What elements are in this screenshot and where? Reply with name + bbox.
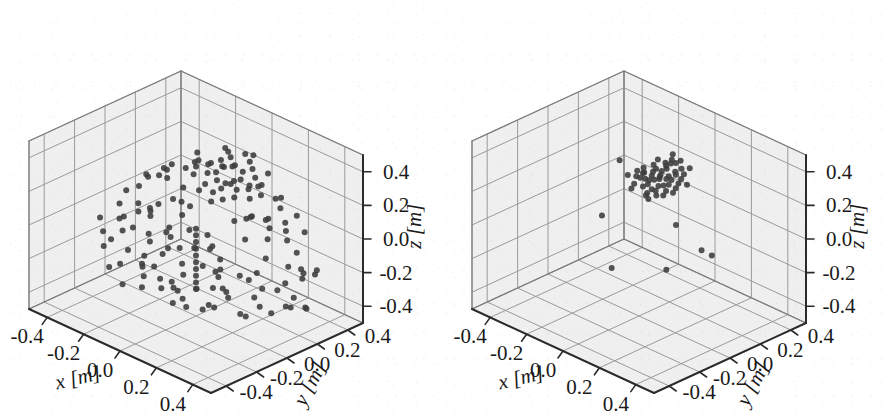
scatter-point [187, 203, 193, 209]
scatter-point [106, 264, 112, 270]
scatter-point [196, 187, 202, 193]
scatter-point [193, 246, 199, 252]
scatter-point [205, 170, 211, 176]
scatter-point [180, 272, 186, 278]
scatter-point [651, 177, 657, 183]
scatter-point [218, 185, 224, 191]
scatter-point [278, 195, 284, 201]
scatter-point [147, 213, 153, 219]
scatter-point [213, 169, 219, 175]
scatter-point [130, 225, 136, 231]
scatter-point [183, 165, 189, 171]
scatter-point [225, 295, 231, 301]
y-tick-label-0: -0.4 [683, 380, 717, 404]
scatter-point [284, 237, 290, 243]
scatter-point [273, 196, 279, 202]
scatter-point [234, 187, 240, 193]
scatter-point [141, 253, 147, 259]
scatter-point [100, 228, 106, 234]
scatter-point [265, 171, 271, 177]
scatter-point [156, 172, 162, 178]
scatter-point [200, 307, 206, 313]
z-tick-label-1: -0.2 [822, 261, 855, 285]
x-tick-label-0: -0.4 [454, 324, 488, 348]
scatter-point [193, 163, 199, 169]
x-tick [485, 317, 490, 324]
scatter-point [263, 256, 269, 262]
scatter-point [204, 232, 210, 238]
scatter-point [663, 176, 669, 182]
scatter-point [249, 213, 255, 219]
scatter-point [274, 287, 280, 293]
scatter-point [116, 216, 122, 222]
scatter-point [222, 180, 228, 186]
x-tick-label-1: -0.2 [47, 341, 80, 365]
scatter-point [139, 284, 145, 290]
scatter-point [257, 304, 263, 310]
y-tick [317, 344, 324, 349]
scatter-point [599, 212, 605, 218]
scatter-point [157, 276, 163, 282]
scatter-point [191, 171, 197, 177]
scatter-point [303, 306, 309, 312]
scatter-point [151, 263, 157, 269]
scatter-point [283, 228, 289, 234]
x-axis-label: x [m] [52, 361, 103, 395]
scatter-point [655, 156, 661, 162]
scatter-point [193, 273, 199, 279]
scatter-point [210, 189, 216, 195]
scatter-point [193, 279, 199, 285]
scatter-point [259, 286, 265, 292]
scatter-point [146, 231, 152, 237]
y-tick-label-4: 0.4 [365, 324, 392, 348]
scatter-point [120, 281, 126, 287]
scatter-point [180, 296, 186, 302]
scatter-point [267, 225, 273, 231]
scatter-point [285, 264, 291, 270]
scatter-point [125, 247, 131, 253]
x-axis-label: x [m] [495, 361, 546, 395]
y-tick [287, 358, 294, 363]
scatter-point [247, 196, 253, 202]
scatter-point [242, 237, 248, 243]
scatter-point [177, 245, 183, 251]
scatter-point [268, 310, 274, 316]
scatter-point [211, 305, 217, 311]
x-tick-label-3: 0.2 [123, 375, 149, 399]
scatter-point [617, 157, 623, 163]
scatter-point [684, 182, 690, 188]
scatter-point [254, 270, 260, 276]
scatter-point [258, 192, 264, 198]
scatter-point [108, 236, 114, 242]
scatter-point [653, 192, 659, 198]
scatter-point [135, 209, 141, 215]
scatter-point [231, 178, 237, 184]
scatter-point [246, 186, 252, 192]
scatter-point [170, 300, 176, 306]
y-tick [700, 372, 707, 377]
scatter-point [265, 236, 271, 242]
scatter-point [117, 261, 123, 267]
scatter-point [645, 196, 651, 202]
scatter-point [709, 253, 715, 259]
x-tick [151, 368, 156, 375]
y-tick [348, 330, 355, 335]
scatter-point [263, 217, 269, 223]
scatter-panel-right: -0.4-0.4-0.4-0.2-0.2-0.20.00.00.00.20.20… [443, 0, 886, 416]
scatter-point [217, 256, 223, 262]
scatter-point [179, 261, 185, 267]
scatter-point [120, 228, 126, 234]
scatter-point [231, 195, 237, 201]
scatter-point [288, 305, 294, 311]
scatter-point [225, 149, 231, 155]
scatter-plot-left: -0.4-0.4-0.4-0.2-0.2-0.20.00.00.00.20.20… [0, 0, 443, 416]
scatter-point [194, 286, 200, 292]
y-tick [669, 386, 676, 391]
scatter-point [609, 265, 615, 271]
y-tick [257, 372, 264, 377]
scatter-point [242, 151, 248, 157]
x-tick-label-3: 0.2 [566, 375, 592, 399]
x-tick-label-4: 0.4 [160, 392, 187, 416]
scatter-point [238, 177, 244, 183]
y-tick [760, 344, 767, 349]
